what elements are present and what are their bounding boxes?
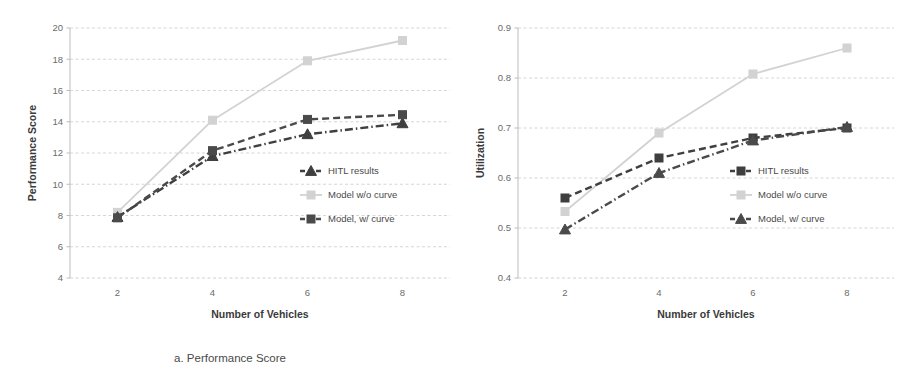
series-line: [118, 41, 403, 213]
x-axis-tick-label: 8: [844, 287, 849, 298]
legend-label: Model w/o curve: [328, 189, 397, 200]
data-point-marker-square: [304, 57, 312, 65]
data-point-marker-square: [655, 129, 663, 137]
data-point-marker-square: [307, 191, 315, 199]
series-line: [565, 48, 847, 212]
y-axis-tick-label: 0.5: [498, 222, 511, 233]
gridlines-group: [518, 28, 894, 278]
y-axis-tick-label: 14: [52, 116, 63, 127]
legend-item[interactable]: HITL results: [300, 165, 379, 176]
y-axis-title: Performance Score: [26, 105, 38, 201]
x-axis-tick-label: 8: [400, 287, 405, 298]
chart-panel-performance-score: 4681012141618202468Performance ScoreNumb…: [0, 0, 460, 388]
y-axis-tick-label: 18: [52, 54, 63, 65]
data-point-marker-square: [843, 44, 851, 52]
x-axis-tick-label: 6: [305, 287, 310, 298]
caption-performance-score: a. Performance Score: [0, 352, 460, 364]
y-axis-tick-label: 20: [52, 22, 63, 33]
y-axis-tick-label: 8: [58, 210, 63, 221]
legend-item[interactable]: HITL results: [730, 165, 809, 176]
data-point-marker-square: [561, 208, 569, 216]
legend-item[interactable]: Model, w/ curve: [730, 213, 825, 224]
data-point-marker-square: [399, 111, 407, 119]
gridlines-group: [70, 28, 450, 278]
data-point-marker-triangle: [736, 214, 747, 224]
chart-svg: 4681012141618202468Performance ScoreNumb…: [0, 0, 460, 348]
x-axis-tick-label: 4: [210, 287, 215, 298]
chart-svg: 0.40.50.60.70.80.92468UtilizationNumber …: [440, 0, 914, 348]
data-point-marker-square: [209, 147, 217, 155]
x-axis-title: Number of Vehicles: [211, 308, 309, 320]
legend-label: Model w/o curve: [758, 189, 827, 200]
figure-container: 4681012141618202468Performance ScoreNumb…: [0, 0, 914, 388]
y-axis-tick-label: 10: [52, 179, 63, 190]
x-axis-tick-label: 2: [562, 287, 567, 298]
data-point-marker-square: [114, 214, 122, 222]
legend: HITL resultsModel w/o curveModel, w/ cur…: [300, 165, 397, 224]
y-axis-tick-label: 0.6: [498, 172, 511, 183]
plot-area-utilization: 0.40.50.60.70.80.92468UtilizationNumber …: [440, 0, 914, 348]
legend-item[interactable]: Model, w/ curve: [300, 213, 395, 224]
legend: HITL resultsModel w/o curveModel, w/ cur…: [730, 165, 827, 224]
data-point-marker-triangle: [306, 166, 317, 176]
x-axis-tick-label: 6: [750, 287, 755, 298]
legend-item[interactable]: Model w/o curve: [730, 189, 827, 200]
y-axis-tick-label: 0.7: [498, 122, 511, 133]
y-axis-tick-label: 12: [52, 147, 63, 158]
x-axis-tick-label: 2: [115, 287, 120, 298]
legend-label: HITL results: [758, 165, 809, 176]
y-axis-tick-label: 16: [52, 85, 63, 96]
plot-area-performance-score: 4681012141618202468Performance ScoreNumb…: [0, 0, 460, 348]
series-line: [565, 128, 847, 198]
data-point-marker-square: [209, 116, 217, 124]
x-axis-title: Number of Vehicles: [657, 308, 755, 320]
chart-panel-utilization: 0.40.50.60.70.80.92468UtilizationNumber …: [440, 0, 914, 388]
y-axis-tick-label: 4: [58, 272, 63, 283]
legend-label: Model, w/ curve: [328, 213, 395, 224]
legend-label: HITL results: [328, 165, 379, 176]
y-axis-tick-label: 0.4: [498, 272, 511, 283]
legend-item[interactable]: Model w/o curve: [300, 189, 397, 200]
data-point-marker-square: [737, 167, 745, 175]
data-point-marker-square: [561, 194, 569, 202]
data-point-marker-square: [655, 154, 663, 162]
data-point-marker-square: [304, 115, 312, 123]
data-point-marker-square: [737, 191, 745, 199]
x-axis-tick-label: 4: [656, 287, 661, 298]
data-point-marker-square: [307, 215, 315, 223]
y-axis-tick-label: 0.8: [498, 72, 511, 83]
data-point-marker-square: [399, 37, 407, 45]
caption-utilization: b. Utilization: [880, 352, 914, 364]
data-point-marker-triangle: [302, 129, 313, 139]
data-point-marker-square: [749, 70, 757, 78]
data-point-marker-triangle: [560, 224, 571, 234]
y-axis-tick-label: 6: [58, 241, 63, 252]
y-axis-tick-label: 0.9: [498, 22, 511, 33]
legend-label: Model, w/ curve: [758, 213, 825, 224]
y-axis-title: Utilization: [474, 128, 486, 178]
